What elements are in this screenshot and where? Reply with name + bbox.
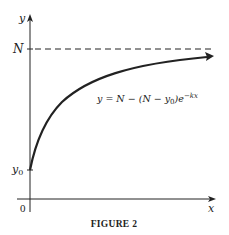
equation-label: y = N − (N − y0)e−kx: [96, 92, 198, 106]
growth-curve: [30, 57, 207, 170]
figure-caption: FIGURE 2: [91, 219, 137, 229]
initial-value-label: y0: [11, 163, 23, 177]
logistic-limited-growth-figure: y N y0 0 x y = N − (N − y0)e−kx FIGURE 2: [0, 0, 229, 235]
asymptote-label: N: [12, 42, 24, 56]
origin-label: 0: [20, 202, 26, 214]
x-axis-label: x: [208, 202, 215, 215]
y-axis-label: y: [18, 12, 26, 25]
